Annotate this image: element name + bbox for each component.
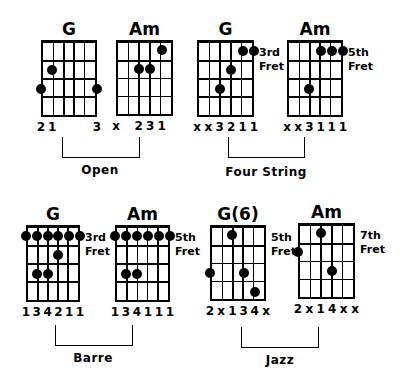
fret-line xyxy=(212,281,264,283)
chord-name: Am xyxy=(267,203,387,221)
fret-position-label: 5th Fret xyxy=(271,231,296,259)
finger-number: x xyxy=(293,120,303,134)
fret-line xyxy=(117,263,168,265)
finger-number: x xyxy=(111,119,121,133)
finger-number: 1 xyxy=(154,305,164,319)
finger-number: 1 xyxy=(21,305,31,319)
group-bracket xyxy=(241,327,319,348)
finger-number: 1 xyxy=(75,305,85,319)
finger-dot-icon xyxy=(249,46,259,56)
finger-dot-icon xyxy=(132,231,142,241)
finger-dot-icon xyxy=(134,64,144,74)
chord-name: Am xyxy=(255,20,375,38)
finger-number: 4 xyxy=(327,302,337,316)
finger-number: 2 xyxy=(134,119,144,133)
finger-number: 1 xyxy=(110,305,120,319)
finger-number: x xyxy=(350,302,360,316)
finger-dot-icon xyxy=(32,269,42,279)
fret-line xyxy=(28,245,78,247)
finger-number: 2 xyxy=(53,305,63,319)
fret-line xyxy=(199,96,252,98)
finger-dot-icon xyxy=(338,46,348,56)
fret-position-label: 3rd Fret xyxy=(85,231,110,259)
finger-dot-icon xyxy=(132,269,142,279)
finger-number: x xyxy=(216,304,226,318)
finger-dot-icon xyxy=(165,231,175,241)
fret-line xyxy=(28,281,78,283)
fret-position-label: 3rd Fret xyxy=(259,46,284,74)
finger-dot-icon xyxy=(238,46,248,56)
group-label: Open xyxy=(40,163,160,177)
finger-dot-icon xyxy=(47,65,57,75)
nut-line xyxy=(298,223,355,226)
finger-number: 1 xyxy=(338,120,348,134)
finger-dot-icon xyxy=(53,231,63,241)
finger-number: 3 xyxy=(121,305,131,319)
fret-line xyxy=(300,243,353,245)
finger-dot-icon xyxy=(43,269,53,279)
fret-line xyxy=(199,60,252,62)
finger-number: 1 xyxy=(47,120,57,134)
finger-number: 3 xyxy=(32,305,42,319)
fret-line xyxy=(300,261,353,263)
fret-line xyxy=(212,245,264,247)
finger-number: 4 xyxy=(43,305,53,319)
finger-number: 4 xyxy=(250,304,260,318)
finger-number: x xyxy=(339,302,349,316)
finger-number: 4 xyxy=(132,305,142,319)
finger-dot-icon xyxy=(121,269,131,279)
finger-number: x xyxy=(192,120,202,134)
group-bracket xyxy=(55,325,133,346)
finger-dot-icon xyxy=(215,84,225,94)
finger-number: 3 xyxy=(215,120,225,134)
nut-line xyxy=(287,40,343,43)
finger-dot-icon xyxy=(316,46,326,56)
group-label: Four String xyxy=(206,165,326,179)
group-label: Jazz xyxy=(220,353,340,367)
fret-line xyxy=(289,60,341,62)
finger-number: 1 xyxy=(227,304,237,318)
finger-dot-icon xyxy=(21,231,31,241)
fretboard-grid xyxy=(41,41,97,117)
finger-dot-icon xyxy=(43,231,53,241)
finger-number: x xyxy=(282,120,292,134)
finger-number: 1 xyxy=(165,305,175,319)
fret-line xyxy=(117,245,168,247)
finger-number: 1 xyxy=(249,120,259,134)
fret-line xyxy=(289,78,341,80)
finger-dot-icon xyxy=(239,268,249,278)
finger-number: 1 xyxy=(64,305,74,319)
finger-number: 1 xyxy=(316,120,326,134)
fret-line xyxy=(199,78,252,80)
fret-line xyxy=(212,263,264,265)
finger-number: 3 xyxy=(92,120,102,134)
fret-line xyxy=(289,96,341,98)
fret-line xyxy=(300,279,353,281)
finger-number: 2 xyxy=(293,302,303,316)
fret-line xyxy=(43,78,95,80)
finger-dot-icon xyxy=(53,250,63,260)
finger-number: 1 xyxy=(327,120,337,134)
fret-line xyxy=(117,281,168,283)
finger-number: 2 xyxy=(226,120,236,134)
nut-line xyxy=(26,225,80,228)
fret-line xyxy=(28,263,78,265)
group-bracket xyxy=(228,137,305,158)
finger-number: 2 xyxy=(36,120,46,134)
fret-line xyxy=(118,96,171,98)
finger-number: 3 xyxy=(239,304,249,318)
fret-position-label: 7th Fret xyxy=(360,229,385,257)
finger-number: 1 xyxy=(143,305,153,319)
finger-dot-icon xyxy=(205,268,215,278)
fret-position-label: 5th Fret xyxy=(348,46,373,74)
finger-dot-icon xyxy=(121,231,131,241)
fret-line xyxy=(43,60,95,62)
finger-dot-icon xyxy=(75,231,85,241)
group-label: Barre xyxy=(33,351,153,365)
fret-line xyxy=(118,60,171,62)
finger-dot-icon xyxy=(327,46,337,56)
finger-dot-icon xyxy=(157,45,167,55)
finger-dot-icon xyxy=(250,287,260,297)
finger-dot-icon xyxy=(143,231,153,241)
nut-line xyxy=(210,225,266,228)
